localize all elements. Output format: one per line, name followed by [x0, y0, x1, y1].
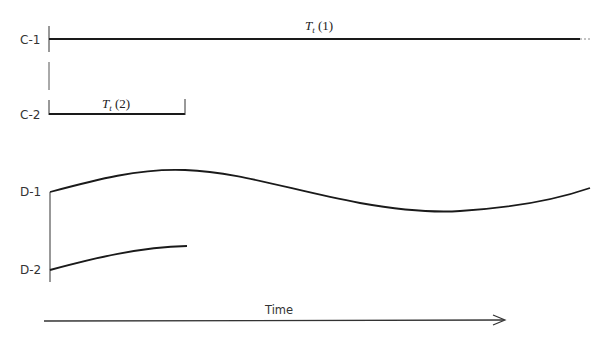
time-axis: Time	[44, 303, 505, 325]
row-label-d2: D-2	[20, 263, 41, 277]
time-axis-label: Time	[264, 303, 293, 317]
c1-annotation: Tt (1)	[305, 18, 333, 35]
c1-trace: Tt (1)	[49, 18, 591, 90]
row-label-c1: C-1	[20, 33, 40, 47]
row-label-d1: D-1	[20, 185, 41, 199]
row-label-c2: C-2	[20, 108, 40, 122]
time-axis-line	[44, 320, 504, 321]
c2-trace: Tt (2)	[49, 96, 185, 115]
d1-curve	[50, 170, 590, 212]
c2-annotation: Tt (2)	[102, 96, 130, 113]
d2-curve	[50, 246, 187, 270]
timing-diagram: C-1 C-2 D-1 D-2 Tt (1) Tt (2) Time	[0, 0, 613, 337]
